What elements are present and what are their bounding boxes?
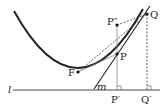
directrix-label: l <box>8 84 11 95</box>
label-p2: P″ <box>107 16 118 27</box>
point-p <box>115 52 118 55</box>
label-f: F <box>68 67 75 78</box>
segment-p2q <box>117 14 147 25</box>
point-q <box>145 12 148 15</box>
right-angle-qprime <box>147 86 151 90</box>
tangent-line-m <box>94 6 150 89</box>
label-pprime: P′ <box>111 94 121 105</box>
label-q: Q <box>150 9 158 20</box>
right-angle-pprime <box>117 86 121 90</box>
point-f <box>76 70 79 73</box>
label-qprime: Q′ <box>141 94 152 105</box>
label-p: P <box>120 51 127 62</box>
parabola-diagram: l m F P P″ Q P′ Q′ <box>0 0 166 106</box>
tangent-label: m <box>97 81 106 92</box>
